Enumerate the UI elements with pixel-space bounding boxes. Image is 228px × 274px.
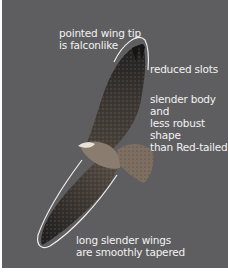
annotation-reduced-slots: reduced slots [150, 63, 218, 75]
annotation-slender-body: slender body and less robust shape than … [150, 93, 228, 153]
hawk-photo: pointed wing tip is falconlike reduced s… [2, 0, 228, 268]
annotation-wing-tip: pointed wing tip is falconlike [59, 27, 141, 51]
annotation-tapered-wings: long slender wings are smoothly tapered [76, 234, 185, 258]
